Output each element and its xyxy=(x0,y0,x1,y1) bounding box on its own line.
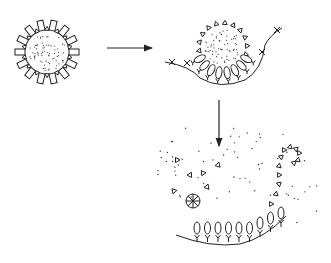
particle-core-dots xyxy=(205,30,239,64)
triangle-projections xyxy=(197,20,250,56)
wheel-particle-icon xyxy=(186,194,200,208)
stage-1-particle xyxy=(15,20,79,84)
diagram-canvas xyxy=(0,0,331,263)
bound-projections xyxy=(194,207,284,242)
stage-3-disassembly xyxy=(157,128,317,245)
stage-2-attachment xyxy=(165,20,282,84)
scattered-dots xyxy=(157,128,317,224)
membrane-line xyxy=(165,28,282,85)
bound-projections xyxy=(193,53,253,79)
diagram-svg xyxy=(0,0,331,263)
